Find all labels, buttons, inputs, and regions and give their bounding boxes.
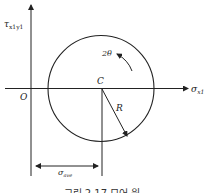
figure-caption: 그림 2.17 모어 원 (64, 188, 141, 193)
angle-label: 2θ (101, 49, 112, 58)
sigma-axis-label: σx1 (191, 84, 204, 95)
rotation-arrow-icon (117, 54, 132, 71)
tau-axis-label: τx1y1 (4, 19, 23, 31)
center-label: C (97, 76, 104, 86)
radius-arrow (102, 89, 127, 136)
origin-label: O (20, 92, 28, 102)
mohr-circle-diagram: τx1y1 σx1 O C R 2θ σave 그림 2.17 모어 원 (0, 0, 205, 193)
sigma-ave-label: σave (58, 168, 72, 178)
radius-label: R (115, 103, 123, 113)
